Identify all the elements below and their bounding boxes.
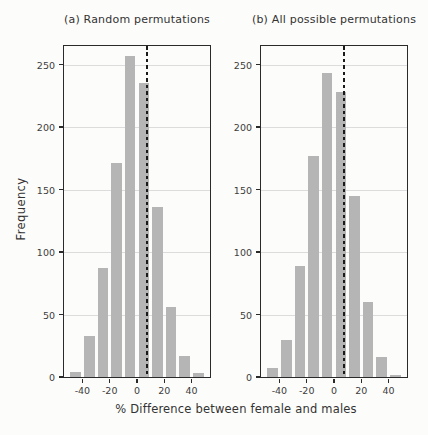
observed-difference-line [343,46,345,377]
histogram-bar [152,207,163,377]
x-tick-label: 40 [186,385,198,396]
gridline-y-50 [64,315,210,316]
histogram-bar [193,373,204,377]
y-tick-label: 50 [43,309,55,320]
x-tick-mark [388,379,390,383]
y-tick-label: 200 [234,122,252,133]
panel-a-title: (a) Random permutations [64,13,210,26]
x-tick-mark [333,379,335,383]
permutation-histograms-figure: Frequency (a) Random permutations 050100… [0,0,428,435]
y-tick-mark [59,64,63,66]
histogram-bar [179,356,190,377]
x-tick-mark [82,379,84,383]
x-tick-label: 20 [158,385,170,396]
x-tick-label: -40 [75,385,91,396]
y-tick-label: 250 [37,59,55,70]
gridline-y-250 [64,65,210,66]
y-tick-label: 100 [37,247,55,258]
y-tick-label: 50 [240,309,252,320]
gridline-y-50 [261,315,407,316]
x-tick-label: -40 [272,385,288,396]
gridline-y-200 [64,127,210,128]
y-tick-mark [256,314,260,316]
histogram-bar [308,156,319,377]
y-tick-label: 150 [37,184,55,195]
y-tick-mark [256,251,260,253]
gridline-y-100 [261,252,407,253]
x-tick-mark [136,379,138,383]
gridline-y-200 [261,127,407,128]
histogram-bar [376,357,387,377]
y-tick-label: 100 [234,247,252,258]
histogram-bar [322,73,333,377]
histogram-bar [363,302,374,377]
y-tick-mark [256,126,260,128]
x-tick-label: 20 [355,385,367,396]
y-tick-mark [59,251,63,253]
gridline-y-100 [64,252,210,253]
x-tick-label: -20 [299,385,315,396]
x-tick-mark [109,379,111,383]
gridline-y-150 [64,190,210,191]
histogram-bar [84,336,95,377]
y-tick-label: 150 [234,184,252,195]
y-tick-label: 0 [49,372,55,383]
x-axis-label: % Difference between female and males [115,402,357,416]
y-tick-mark [59,376,63,378]
panel-a-plot: 050100150200250-40-2002040 [63,45,211,378]
panel-b-plot: 050100150200250-40-2002040 [260,45,408,378]
x-tick-mark [361,379,363,383]
histogram-bar [111,163,122,377]
x-tick-label: 0 [331,385,337,396]
histogram-bar [390,375,401,377]
y-tick-mark [256,189,260,191]
gridline-y-250 [261,65,407,66]
x-tick-mark [279,379,281,383]
histogram-bar [349,196,360,377]
histogram-bar [166,307,177,377]
histogram-bar [295,266,306,377]
histogram-bar [98,268,109,377]
histogram-bar [70,372,81,377]
panel-b-title: (b) All possible permutations [252,13,416,26]
y-tick-label: 0 [246,372,252,383]
histogram-bar [281,340,292,377]
y-tick-mark [256,376,260,378]
x-tick-label: 0 [134,385,140,396]
y-tick-mark [59,126,63,128]
histogram-bar [125,56,136,377]
y-tick-label: 250 [234,59,252,70]
x-tick-label: -20 [102,385,118,396]
histogram-bar [267,368,278,377]
y-tick-mark [256,64,260,66]
gridline-y-150 [261,190,407,191]
y-axis-label: Frequency [14,177,28,240]
y-tick-mark [59,314,63,316]
x-tick-mark [191,379,193,383]
y-tick-label: 200 [37,122,55,133]
x-tick-mark [164,379,166,383]
x-tick-label: 40 [383,385,395,396]
y-tick-mark [59,189,63,191]
x-tick-mark [306,379,308,383]
observed-difference-line [146,46,148,377]
